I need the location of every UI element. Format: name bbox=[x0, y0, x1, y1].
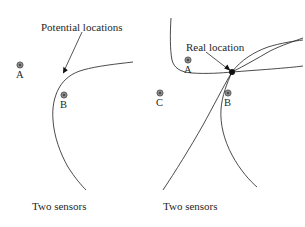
right-real-location-dot bbox=[229, 69, 235, 75]
figure-vector-layer bbox=[0, 0, 305, 227]
right-curve-3 bbox=[221, 72, 257, 187]
right-sensor-a-marker bbox=[185, 57, 191, 63]
right-sensor-b-marker bbox=[225, 90, 231, 96]
figure-root: Potential locations A B Two sensors Real… bbox=[0, 0, 305, 227]
right-sensor-c-marker bbox=[157, 90, 163, 96]
right-annotation-leader-line bbox=[206, 52, 228, 69]
right-annotation-arrowhead bbox=[224, 65, 230, 71]
left-sensor-b-marker bbox=[61, 92, 67, 98]
right-panel-caption: Two sensors bbox=[163, 201, 218, 212]
left-sensor-b-label: B bbox=[60, 100, 67, 111]
right-sensor-b-label: B bbox=[224, 98, 231, 109]
left-annotation-label: Potential locations bbox=[41, 22, 123, 33]
right-sensor-c-label: C bbox=[156, 98, 163, 109]
left-potential-locations-curve bbox=[53, 62, 133, 190]
left-annotation-leader-line bbox=[64, 32, 82, 71]
left-sensor-a-label: A bbox=[16, 70, 24, 81]
left-panel-graphics bbox=[17, 32, 133, 190]
left-sensor-a-marker bbox=[17, 62, 23, 68]
left-panel-caption: Two sensors bbox=[32, 201, 87, 212]
right-annotation-label: Real location bbox=[186, 42, 244, 53]
right-sensor-a-label: A bbox=[184, 65, 192, 76]
right-curve-2 bbox=[163, 40, 303, 190]
